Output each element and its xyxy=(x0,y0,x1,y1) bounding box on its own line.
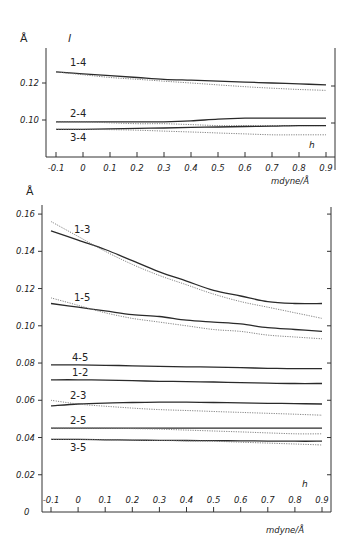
curve-label-2-4: 2-4 xyxy=(70,108,86,119)
y-tick-label: 0.02 xyxy=(16,470,35,480)
bottom-y-ticks: 00.020.040.060.080.100.120.140.16 xyxy=(16,209,42,517)
y-tick-label: 0.04 xyxy=(16,433,35,443)
bottom-h-label: h xyxy=(302,479,308,489)
x-tick-label: 0.4 xyxy=(180,495,194,505)
curve-label-1-5: 1-5 xyxy=(74,292,90,303)
curve-label-3-4: 3-4 xyxy=(70,132,86,143)
x-tick-label: 0.1 xyxy=(103,163,117,173)
x-tick-label: -0.1 xyxy=(48,163,65,173)
y-tick-label: 0.16 xyxy=(16,209,36,219)
figure: Å l 0.100.12 -0.100.10.20.30.40.50.60.70… xyxy=(0,0,352,551)
x-tick-label: 0.3 xyxy=(153,495,167,505)
bottom-y-unit-label: Å xyxy=(26,185,34,198)
bottom-chart: Å 00.020.040.060.080.100.120.140.16 -0.1… xyxy=(16,185,331,535)
y-tick-label: 0.08 xyxy=(16,358,36,368)
top-y-unit-label: Å xyxy=(20,32,28,45)
series-1-2-solid xyxy=(51,380,322,384)
y-tick-label: 0.12 xyxy=(20,78,39,88)
curve-label-3-5: 3-5 xyxy=(70,442,86,453)
x-tick-label: 0.7 xyxy=(261,495,275,505)
curve-label-1-2: 1-2 xyxy=(72,367,88,378)
series-2-5-dotted xyxy=(51,428,322,434)
series-3-4-solid xyxy=(56,126,326,130)
x-tick-label: 0.3 xyxy=(157,163,171,173)
top-x-unit-label: mdyne/Å xyxy=(271,175,309,186)
top-chart: Å l 0.100.12 -0.100.10.20.30.40.50.60.70… xyxy=(20,32,335,186)
top-h-label: h xyxy=(309,140,315,150)
bottom-right-ticks xyxy=(327,214,331,475)
x-tick-label: 0.8 xyxy=(288,495,302,505)
x-tick-label: 0.1 xyxy=(98,495,112,505)
series-1-5-solid xyxy=(51,304,322,332)
x-tick-label: 0 xyxy=(75,495,80,505)
top-x-ticks: -0.100.10.20.30.40.50.60.70.80.9 xyxy=(48,152,333,173)
x-tick-label: 0.7 xyxy=(265,163,279,173)
top-y-ticks: 0.100.12 xyxy=(20,78,46,125)
bottom-series: 1-31-54-51-22-32-53-5 xyxy=(51,222,322,454)
y-tick-label: 0.10 xyxy=(20,115,39,125)
y-tick-label: 0.12 xyxy=(16,284,35,294)
x-tick-label: 0.9 xyxy=(319,163,333,173)
series-4-5-solid xyxy=(51,365,322,369)
series-2-4-solid xyxy=(56,118,326,122)
series-1-3-dotted xyxy=(51,222,322,319)
y-tick-label: 0 xyxy=(24,507,29,517)
series-3-4-dotted xyxy=(56,129,326,135)
x-tick-label: 0 xyxy=(80,163,85,173)
curve-label-1-3: 1-3 xyxy=(74,224,90,235)
x-tick-label: 0.5 xyxy=(207,495,221,505)
bottom-x-ticks: -0.100.10.20.30.40.50.60.70.80.9 xyxy=(43,495,329,512)
x-tick-label: 0.5 xyxy=(211,163,225,173)
x-tick-label: 0.4 xyxy=(184,163,198,173)
y-tick-label: 0.14 xyxy=(16,246,35,256)
curve-label-1-4: 1-4 xyxy=(70,57,86,68)
curve-label-4-5: 4-5 xyxy=(72,352,88,363)
x-tick-label: 0.6 xyxy=(234,495,248,505)
curve-label-2-3: 2-3 xyxy=(70,390,86,401)
x-tick-label: 0.8 xyxy=(292,163,306,173)
x-tick-label: 0.2 xyxy=(126,495,140,505)
y-tick-label: 0.10 xyxy=(16,321,35,331)
series-1-5-dotted xyxy=(51,298,322,339)
bottom-x-unit-label: mdyne/Å xyxy=(266,524,304,535)
y-tick-label: 0.06 xyxy=(16,395,36,405)
curve-label-2-5: 2-5 xyxy=(70,415,86,426)
series-1-3-solid xyxy=(51,231,322,304)
x-tick-label: 0.2 xyxy=(130,163,144,173)
top-series: 1-42-43-4 xyxy=(56,57,326,143)
x-tick-label: -0.1 xyxy=(43,495,60,505)
top-chart-title-l: l xyxy=(68,32,71,45)
x-tick-label: 0.6 xyxy=(238,163,252,173)
x-tick-label: 0.9 xyxy=(315,495,329,505)
